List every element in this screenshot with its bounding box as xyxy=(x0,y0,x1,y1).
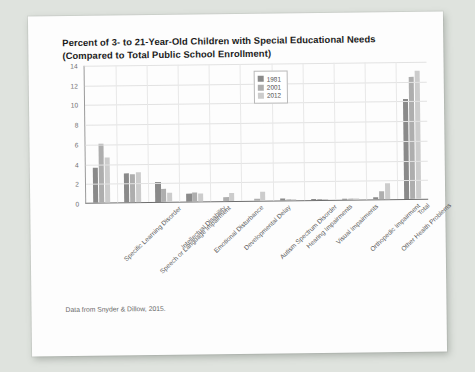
bar xyxy=(385,183,390,199)
x-axis-labels: Specific Learning DisorderSpeech or Lang… xyxy=(85,202,436,301)
chart-page: Percent of 3- to 21-Year-Old Children wi… xyxy=(28,11,447,356)
chart-legend: 198120012012 xyxy=(254,70,289,104)
bar xyxy=(229,193,234,201)
bar xyxy=(255,199,260,201)
screenshot-stage: Percent of 3- to 21-Year-Old Children wi… xyxy=(0,0,475,372)
x-axis-label: Developmental Delay xyxy=(243,203,293,251)
bar xyxy=(317,199,322,200)
bar xyxy=(155,182,160,202)
legend-label: 2001 xyxy=(267,84,281,91)
legend-item: 1981 xyxy=(258,74,281,83)
bar xyxy=(187,194,192,202)
bar xyxy=(323,199,328,200)
bar xyxy=(354,199,359,200)
legend-label: 1981 xyxy=(267,75,281,82)
legend-swatch xyxy=(258,84,264,90)
bar xyxy=(124,174,130,203)
y-tick-label: 8 xyxy=(75,122,79,129)
y-axis: 02468101214 xyxy=(57,66,85,204)
bar xyxy=(223,197,228,201)
chart-plot-area: 02468101214 198120012012 xyxy=(57,62,429,222)
bar xyxy=(192,193,197,202)
y-tick-label: 6 xyxy=(75,141,79,148)
bar xyxy=(342,199,347,200)
x-axis-label: Specific Learning Disorder xyxy=(122,205,182,263)
bar xyxy=(348,198,353,200)
page-title: Percent of 3- to 21-Year-Old Children wi… xyxy=(62,32,412,63)
legend-item: 2001 xyxy=(258,83,281,92)
bar xyxy=(379,191,384,199)
y-tick-label: 2 xyxy=(75,181,79,188)
legend-swatch xyxy=(258,93,264,99)
bar xyxy=(130,175,136,203)
title-line-2: (Compared to Total Public School Enrollm… xyxy=(62,45,412,63)
y-tick-label: 10 xyxy=(71,102,78,109)
bar xyxy=(286,199,291,201)
bar xyxy=(161,189,166,202)
bar xyxy=(311,199,316,200)
source-note: Data from Snyder & Dillow, 2015. xyxy=(65,305,165,313)
legend-item: 2012 xyxy=(258,91,281,100)
y-tick-label: 4 xyxy=(75,161,79,168)
legend-label: 2012 xyxy=(267,92,281,99)
bar xyxy=(167,193,172,202)
bar xyxy=(198,194,203,202)
legend-swatch xyxy=(258,76,264,82)
y-tick-label: 14 xyxy=(70,62,77,69)
bar xyxy=(291,199,296,201)
bar xyxy=(280,198,285,200)
bar xyxy=(260,192,265,201)
bar xyxy=(98,143,104,202)
y-tick-label: 0 xyxy=(76,200,80,207)
bar xyxy=(373,197,378,199)
y-tick-label: 12 xyxy=(70,82,77,89)
bar xyxy=(136,173,142,203)
